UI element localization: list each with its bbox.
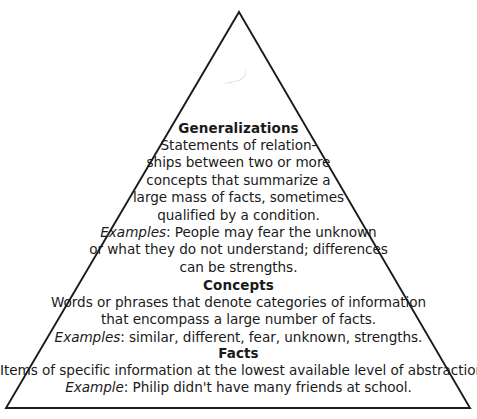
tier-generalizations-line: concepts that summarize a <box>0 172 477 189</box>
example-text: : similar, different, fear, unknown, str… <box>120 329 422 345</box>
example-label: Examples <box>55 329 121 345</box>
pyramid-diagram-page: Generalizations Statements of relation- … <box>0 0 477 419</box>
tier-facts-example-line: Example: Philip didn't have many friends… <box>0 379 477 396</box>
tier-concepts-heading: Concepts <box>0 277 477 294</box>
tier-concepts-line: Words or phrases that denote categories … <box>0 294 477 311</box>
tier-concepts-line: that encompass a large number of facts. <box>0 311 477 328</box>
tier-generalizations-example-line: can be strengths. <box>0 259 477 276</box>
tier-generalizations-line: ships between two or more <box>0 154 477 171</box>
example-text: : Philip didn't have many friends at sch… <box>124 379 412 395</box>
tier-generalizations-example-line: Examples: People may fear the unknown <box>0 224 477 241</box>
tier-generalizations: Generalizations Statements of relation- … <box>0 120 477 276</box>
example-label: Example <box>65 379 124 395</box>
tier-facts: Facts Items of specific information at t… <box>0 345 477 397</box>
tier-generalizations-line: large mass of facts, sometimes <box>0 189 477 206</box>
tier-generalizations-heading: Generalizations <box>0 120 477 137</box>
example-text: : People may fear the unknown <box>166 224 377 240</box>
tier-generalizations-example-line: or what they do not understand; differen… <box>0 241 477 258</box>
tier-generalizations-line: qualified by a condition. <box>0 207 477 224</box>
tier-concepts-example-line: Examples: similar, different, fear, unkn… <box>0 329 477 346</box>
example-label: Examples <box>100 224 166 240</box>
tier-generalizations-line: Statements of relation- <box>0 137 477 154</box>
tier-facts-heading: Facts <box>0 345 477 362</box>
tier-facts-line: Items of specific information at the low… <box>0 362 477 379</box>
tier-concepts: Concepts Words or phrases that denote ca… <box>0 277 477 346</box>
